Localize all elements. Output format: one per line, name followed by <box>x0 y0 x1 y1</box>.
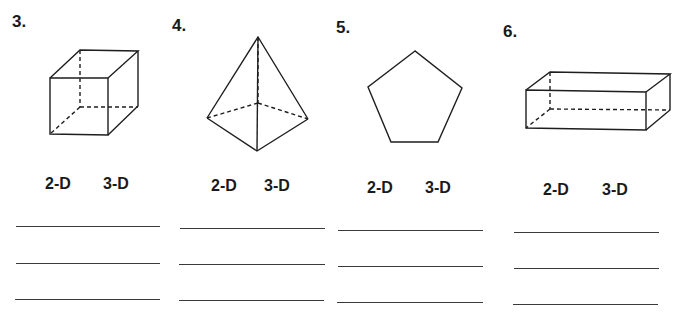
answer-line-6-3[interactable] <box>513 304 658 305</box>
option-3d-problem-4[interactable]: 3-D <box>264 178 290 194</box>
option-3d-problem-5[interactable]: 3-D <box>425 180 451 196</box>
cube-figure <box>50 50 138 135</box>
answer-line-6-2[interactable] <box>514 268 659 269</box>
answer-line-5-3[interactable] <box>337 302 483 303</box>
answer-line-3-2[interactable] <box>16 263 160 264</box>
answer-line-6-1[interactable] <box>514 232 659 233</box>
answer-line-3-3[interactable] <box>15 299 160 300</box>
answer-line-3-1[interactable] <box>16 226 160 227</box>
option-2d-problem-4[interactable]: 2-D <box>211 178 237 194</box>
rectangular-prism-figure <box>526 72 670 130</box>
option-2d-problem-3[interactable]: 2-D <box>45 176 71 192</box>
answer-line-4-1[interactable] <box>180 228 325 229</box>
pyramid-figure <box>207 37 308 151</box>
figures <box>0 0 686 325</box>
pentagon-figure <box>368 51 462 142</box>
option-2d-problem-5[interactable]: 2-D <box>367 180 393 196</box>
option-3d-problem-3[interactable]: 3-D <box>103 176 129 192</box>
answer-line-5-1[interactable] <box>338 230 483 231</box>
option-2d-problem-6[interactable]: 2-D <box>543 182 569 198</box>
answer-line-5-2[interactable] <box>338 266 483 267</box>
answer-line-4-3[interactable] <box>179 300 324 301</box>
option-3d-problem-6[interactable]: 3-D <box>602 182 628 198</box>
answer-line-4-2[interactable] <box>179 264 325 265</box>
